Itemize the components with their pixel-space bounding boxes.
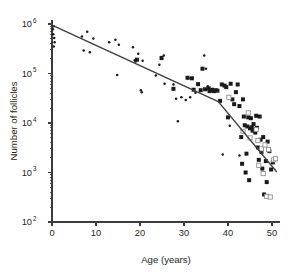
y-tick-label: 10 — [22, 168, 32, 178]
data-point-filled-square — [171, 87, 175, 91]
y-tick-exponent: 2 — [33, 215, 37, 222]
data-point-dot — [203, 54, 206, 57]
data-point-dot — [141, 91, 144, 94]
data-point-dot — [52, 33, 55, 36]
data-point-dot — [86, 30, 89, 33]
y-tick-exponent: 4 — [33, 116, 37, 123]
data-point-filled-square — [224, 85, 228, 89]
data-point-filled-square — [199, 88, 203, 92]
data-point-dot — [53, 45, 56, 48]
data-point-filled-square — [247, 178, 251, 182]
x-tick-label: 20 — [135, 228, 145, 238]
data-point-dot — [108, 41, 111, 44]
data-point-filled-square — [200, 67, 204, 71]
data-point-dot — [141, 60, 144, 63]
x-axis-tick-labels: 01020304050 — [49, 228, 277, 238]
data-point-filled-square — [257, 158, 261, 162]
data-point-dot — [81, 35, 84, 38]
y-tick-exponent: 6 — [33, 17, 37, 24]
data-point-dot — [89, 51, 92, 54]
data-point-dot — [118, 44, 121, 47]
data-point-dot — [92, 37, 95, 40]
data-point-filled-square — [269, 167, 273, 171]
data-point-dot — [177, 120, 180, 123]
x-tick-label: 50 — [267, 228, 277, 238]
data-point-filled-square — [203, 87, 207, 91]
data-point-dot — [52, 28, 55, 31]
data-point-filled-square — [215, 89, 219, 93]
data-point-open-square — [246, 111, 250, 115]
data-point-open-square — [261, 172, 265, 176]
data-point-dot — [163, 83, 166, 86]
data-point-dot — [137, 53, 140, 56]
x-axis-ticks — [52, 222, 272, 226]
data-point-dot — [172, 83, 175, 86]
data-point-filled-square — [186, 76, 190, 80]
data-point-dot — [82, 49, 85, 52]
data-point-filled-square — [249, 116, 253, 120]
data-point-filled-square — [229, 82, 233, 86]
data-point-dot — [155, 74, 158, 77]
data-point-filled-square — [241, 97, 245, 101]
data-point-filled-square — [239, 135, 243, 139]
data-point-filled-square — [234, 90, 238, 94]
y-tick-label: 10 — [22, 217, 32, 227]
y-axis-tick-labels: 102103104105106 — [22, 17, 37, 228]
data-point-filled-square — [237, 104, 241, 108]
data-point-open-square — [257, 163, 261, 167]
y-tick-label: 10 — [22, 118, 32, 128]
data-point-dot — [132, 46, 135, 49]
data-point-open-square — [254, 127, 258, 131]
data-point-filled-square — [236, 82, 240, 86]
data-point-filled-square — [242, 115, 246, 119]
y-tick-label: 10 — [22, 19, 32, 29]
data-point-open-square — [268, 195, 272, 199]
y-axis-ticks — [48, 24, 52, 222]
x-tick-label: 10 — [91, 228, 101, 238]
x-axis-title: Age (years) — [141, 254, 191, 265]
data-point-dot — [175, 97, 178, 100]
data-point-filled-square — [254, 114, 258, 118]
data-point-filled-square — [244, 171, 248, 175]
data-point-dot — [116, 74, 119, 77]
data-point-filled-square — [265, 180, 269, 184]
data-point-dot — [238, 154, 241, 157]
data-point-dot — [229, 124, 232, 127]
data-point-dot — [158, 64, 161, 67]
data-point-filled-square — [252, 122, 256, 126]
data-point-dot — [221, 153, 224, 156]
data-point-open-square — [256, 139, 260, 143]
data-point-dot — [185, 99, 188, 102]
data-point-filled-square — [261, 135, 265, 139]
data-point-filled-square — [240, 162, 244, 166]
data-point-filled-square — [160, 56, 164, 60]
scatter-points — [52, 25, 278, 199]
data-point-filled-square — [190, 76, 194, 80]
data-point-open-square — [273, 157, 277, 161]
data-point-open-square — [266, 148, 270, 152]
x-tick-label: 30 — [179, 228, 189, 238]
x-tick-label: 40 — [223, 228, 233, 238]
y-tick-exponent: 5 — [33, 66, 37, 73]
x-tick-label: 0 — [49, 228, 54, 238]
data-point-filled-square — [135, 58, 139, 62]
data-point-open-square — [227, 95, 231, 99]
y-tick-exponent: 3 — [33, 165, 37, 172]
data-point-open-square — [263, 143, 267, 147]
data-point-dot — [53, 37, 56, 40]
data-point-dot — [189, 96, 192, 99]
data-point-dot — [180, 96, 183, 99]
data-point-dot — [53, 41, 56, 44]
follicle-count-chart: 102103104105106 01020304050 Age (years) … — [0, 0, 290, 273]
data-point-filled-square — [196, 82, 200, 86]
data-point-dot — [205, 67, 208, 70]
data-point-filled-square — [232, 102, 236, 106]
data-point-filled-square — [244, 152, 248, 156]
data-point-filled-square — [258, 115, 262, 119]
chart-canvas: 102103104105106 01020304050 Age (years) … — [0, 0, 290, 273]
data-point-dot — [114, 39, 117, 42]
y-axis-title: Number of follicles — [8, 81, 19, 160]
y-tick-label: 10 — [22, 69, 32, 79]
